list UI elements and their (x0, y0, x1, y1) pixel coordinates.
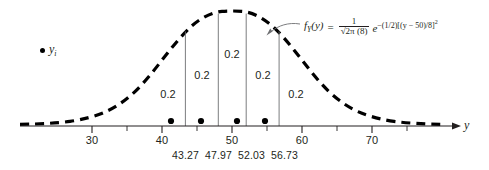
formula-equals: = (325, 21, 335, 33)
x-axis-minor-ticks (127, 126, 407, 131)
area-label-3: 0.2 (218, 48, 246, 60)
legend-dot-icon (40, 48, 45, 53)
normal-distribution-figure: 30 40 50 60 70 43.27 47.97 52.03 56.73 0… (0, 0, 489, 170)
density-formula: fY(y) = 1 √2π (8) e−(1/2)[(y − 50)/8]2 (304, 17, 438, 37)
formula-argument: (y) (311, 19, 323, 31)
formula-exponent: −(1/2)[(y − 50)/8]2 (377, 21, 437, 30)
area-label-4: 0.2 (249, 69, 277, 81)
x-axis-arrow-icon (452, 123, 461, 130)
x-axis-major-ticks (92, 126, 372, 133)
sample-dot-1 (168, 118, 174, 124)
x-tick-label-50: 50 (218, 134, 246, 146)
x-axis-label: y (464, 118, 469, 133)
x-tick-label-40: 40 (148, 134, 176, 146)
formula-leader-arrow-icon (267, 28, 273, 35)
cut-label-56-73: 56.73 (262, 149, 307, 161)
formula-exponential: e−(1/2)[(y − 50)/8]2 (372, 19, 437, 34)
sample-dot-4 (262, 118, 268, 124)
sample-dot-3 (234, 118, 240, 124)
formula-exponent-text: −(1/2)[(y − 50)/8] (377, 21, 434, 30)
formula-exponent-power: 2 (435, 19, 438, 25)
x-tick-label-70: 70 (358, 134, 386, 146)
area-label-5: 0.2 (282, 88, 310, 100)
x-tick-label-30: 30 (78, 134, 106, 146)
formula-fraction: 1 √2π (8) (339, 17, 370, 37)
formula-denominator: √2π (8) (339, 26, 370, 36)
x-tick-label-60: 60 (288, 134, 316, 146)
legend: yi (40, 42, 57, 58)
legend-label-subscript: i (54, 49, 56, 58)
formula-numerator: 1 (349, 17, 360, 26)
legend-label: yi (49, 42, 57, 58)
area-label-2: 0.2 (188, 69, 216, 81)
sample-dot-2 (198, 118, 204, 124)
area-label-1: 0.2 (154, 88, 182, 100)
formula-function: fY(y) (304, 19, 323, 34)
